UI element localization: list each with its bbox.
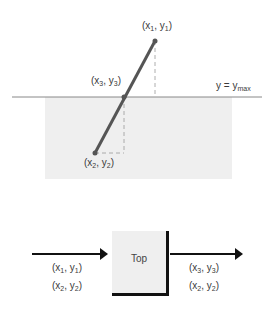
input-arrowhead-icon [100,248,108,260]
label-p2: (x2, y2) [84,157,114,172]
point-p1 [153,39,158,44]
clipped-region-shade [45,97,232,179]
input-label-1: (x1, y1) [52,262,82,277]
point-p3 [122,95,127,100]
point-p2 [93,151,98,156]
label-y-max: y = ymax [216,80,251,95]
label-p1: (x1, y1) [142,20,172,35]
output-label-1: (x3, y3) [189,262,219,277]
input-label-2: (x2, y2) [52,280,82,295]
output-arrowhead-icon [235,248,243,260]
top-clipper-box: Top [112,231,169,296]
label-p3: (x3, y3) [91,75,121,90]
box-label: Top [112,253,166,264]
output-label-2: (x2, y2) [189,280,219,295]
